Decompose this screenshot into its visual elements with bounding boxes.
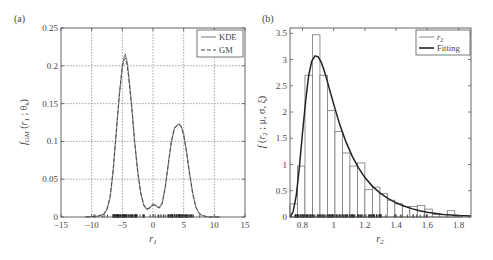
x-tick-label: 1.8	[453, 220, 465, 230]
chart-a: (a) −15−10−5051015 00.050.10.150.20.25 r…	[14, 13, 250, 246]
x-tick-label: −5	[118, 220, 128, 230]
y-tick-label: 3.5	[276, 28, 288, 38]
y-tick-label: 3	[283, 55, 288, 65]
x-axis-label-b: r2	[376, 233, 384, 246]
y-tick-label: 0.1	[47, 136, 58, 146]
histogram-bar	[312, 35, 319, 217]
y-axis-label-a: fGM (r1 ; θk)	[18, 99, 31, 145]
x-tick-label: 1.6	[422, 220, 434, 230]
series-kde-line	[86, 55, 221, 218]
panel-label-b: (b)	[262, 13, 274, 25]
x-tick-label: 1	[331, 220, 336, 230]
x-tick-label: 5	[181, 220, 186, 230]
histogram-bar	[342, 153, 349, 217]
panel-label-a: (a)	[14, 13, 25, 25]
y-tick-label: 0.25	[42, 23, 58, 33]
y-axis-label-b: f (r2 ; μ, σ, ξ)	[256, 96, 269, 148]
x-tick-label: 0	[151, 220, 156, 230]
y-tick-label: 0.05	[42, 174, 58, 184]
histogram-bar	[327, 110, 334, 217]
x-tick-label: −10	[85, 220, 100, 230]
legend-gm-label: GM	[219, 45, 233, 55]
histogram-bar	[350, 166, 357, 217]
y-tick-label: 0	[54, 212, 59, 222]
y-tick-label: 0.5	[276, 186, 288, 196]
chart-b: (b) 0.811.21.41.61.8 00.511.522.533.5 r2…	[256, 13, 471, 246]
figure: (a) −15−10−5051015 00.050.10.150.20.25 r…	[0, 0, 493, 260]
x-axis-ticks-a: −15−10−5051015	[54, 28, 250, 230]
x-tick-label: 1.4	[390, 220, 402, 230]
y-tick-label: 1	[283, 160, 288, 170]
lines-a	[86, 55, 221, 218]
x-tick-label: 0.8	[297, 220, 309, 230]
legend-fitting-label: Fitting	[437, 43, 460, 53]
histogram-bar	[335, 131, 342, 217]
histogram-bar	[365, 190, 372, 217]
legend-a: KDE GM	[197, 30, 243, 57]
x-tick-label: 1.2	[359, 220, 370, 230]
x-axis-label-a: r1	[149, 233, 156, 246]
legend-b: r2 Fitting	[416, 30, 470, 55]
x-tick-label: 15	[241, 220, 251, 230]
legend-kde-label: KDE	[219, 32, 236, 42]
y-tick-label: 0.2	[47, 61, 58, 71]
y-tick-label: 2	[283, 107, 288, 117]
histogram-bar	[447, 211, 454, 217]
y-tick-label: 2.5	[276, 81, 288, 91]
y-tick-label: 0	[283, 212, 288, 222]
histogram-bar	[387, 200, 394, 217]
y-tick-label: 1.5	[276, 133, 288, 143]
x-tick-label: 10	[210, 220, 220, 230]
histogram-bar	[320, 75, 327, 217]
y-tick-label: 0.15	[42, 99, 58, 109]
